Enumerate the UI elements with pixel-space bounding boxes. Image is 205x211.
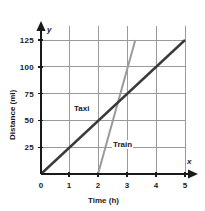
x-tick-label-4: 4	[146, 181, 166, 190]
y-axis-title: Distance (mi)	[8, 90, 17, 140]
x-tick-label-0: 0	[31, 181, 51, 190]
y-axis-variable-label: y	[47, 25, 51, 34]
x-tick-label-1: 1	[59, 181, 79, 190]
x-axis-variable-label: x	[187, 157, 191, 166]
y-tick-label-125: 125	[6, 36, 34, 45]
distance-time-chart: 125 100 75 50 25 0 1 2 3 4 5 y x Distanc…	[0, 0, 205, 211]
y-tick-label-100: 100	[6, 62, 34, 71]
x-tick-label-2: 2	[88, 181, 108, 190]
y-axis-arrowhead	[36, 21, 45, 31]
x-axis-title: Time (h)	[88, 196, 119, 205]
series-label-train: Train	[112, 140, 133, 149]
series-line-taxi	[41, 40, 185, 174]
grid-lines	[41, 26, 186, 174]
x-tick-label-5: 5	[175, 181, 195, 190]
series-line-train	[98, 40, 135, 174]
x-axis-arrowhead	[188, 169, 198, 178]
series-label-taxi: Taxi	[73, 104, 90, 113]
x-tick-label-3: 3	[117, 181, 137, 190]
chart-canvas	[0, 0, 205, 211]
y-tick-label-25: 25	[6, 143, 34, 152]
